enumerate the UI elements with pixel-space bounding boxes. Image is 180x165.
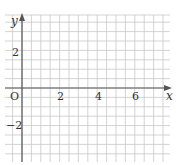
x-axis-label: x xyxy=(166,89,173,103)
x-tick-label-6: 6 xyxy=(132,90,139,103)
x-tick-label-4: 4 xyxy=(95,90,102,103)
y-tick-label-neg2: −2 xyxy=(6,119,22,132)
y-tick-label-2: 2 xyxy=(12,46,19,59)
coordinate-plane: x y O 2 4 6 2 −2 xyxy=(0,0,180,165)
origin-label: O xyxy=(10,90,19,103)
y-axis-arrow-icon xyxy=(19,13,25,21)
y-axis-label: y xyxy=(10,14,18,28)
x-tick-label-2: 2 xyxy=(57,90,64,103)
